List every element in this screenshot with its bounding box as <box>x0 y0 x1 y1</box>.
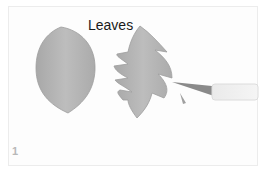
craft-knife <box>172 82 258 104</box>
plain-leaf <box>36 27 95 113</box>
title-label: Leaves <box>88 17 133 33</box>
serrated-leaf <box>114 26 172 118</box>
step-number: 1 <box>12 145 18 157</box>
